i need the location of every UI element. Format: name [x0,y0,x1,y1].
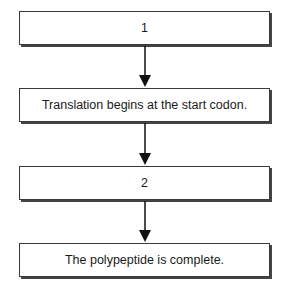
step-3-label: 2 [141,176,148,190]
flow-box-step-3: 2 [19,166,270,200]
step-1-label: 1 [141,21,148,35]
step-4-label: The polypeptide is complete. [65,253,224,267]
arrow-down-icon [139,201,151,243]
flow-box-step-4: The polypeptide is complete. [19,243,270,277]
arrow-down-icon [139,123,151,166]
arrow-down-icon [139,46,151,88]
step-2-label: Translation begins at the start codon. [42,98,247,112]
flow-box-step-1: 1 [19,11,270,45]
flow-box-step-2: Translation begins at the start codon. [19,88,270,122]
